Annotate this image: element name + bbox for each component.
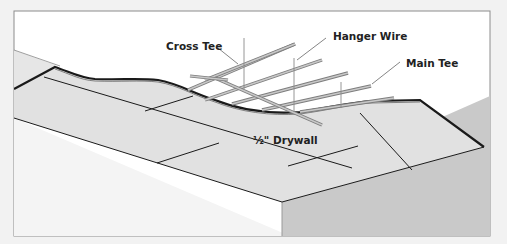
label-cross-tee: Cross Tee [166,40,222,52]
label-main-tee: Main Tee [406,57,458,69]
suspended-ceiling-diagram: Cross Tee Hanger Wire Main Tee ½" Drywal… [0,0,507,244]
label-hanger-wire: Hanger Wire [333,30,407,42]
label-drywall: ½" Drywall [253,134,318,146]
